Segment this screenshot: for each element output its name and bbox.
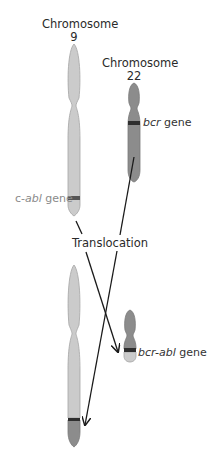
- bcr-gene-suffix: gene: [161, 116, 192, 129]
- philadelphia-chromosome: [124, 310, 136, 362]
- c-abl-gene-label: c-abl gene: [15, 192, 73, 205]
- arrow-bcr-top-segment: [120, 157, 134, 235]
- chr9-title-line2: 9: [42, 31, 106, 44]
- c-abl-prefix: c-: [15, 192, 25, 205]
- bcr-abl-gene-name: bcr-abl: [138, 346, 176, 359]
- chr22-title: Chromosome 22: [102, 57, 166, 83]
- derivative-band: [68, 418, 80, 421]
- arrow-abl-top-segment: [76, 221, 82, 234]
- bcr-gene-label: bcr gene: [143, 116, 192, 129]
- translocation-label: Translocation: [71, 237, 149, 250]
- bcr-abl-gene-label: bcr-abl gene: [138, 346, 207, 359]
- chromosome-9: [68, 44, 80, 216]
- c-abl-gene-suffix: gene: [42, 192, 73, 205]
- arrow-bcr-to-derivative: [85, 251, 117, 425]
- bcr-abl-gene-suffix: gene: [176, 346, 207, 359]
- bcr-gene-name: bcr: [143, 116, 161, 129]
- bcr-band: [128, 121, 140, 125]
- c-abl-gene-name: abl: [25, 192, 42, 205]
- chr9-title: Chromosome 9: [42, 18, 106, 44]
- chr22-title-line2: 22: [102, 70, 166, 83]
- arrow-abl-to-fusion: [86, 252, 118, 352]
- bcr-abl-band: [124, 348, 136, 352]
- chromosome-22: [128, 83, 140, 182]
- chromosome-translocation-diagram: Chromosome 9 Chromosome 22 bcr gene c-ab…: [0, 0, 211, 459]
- derivative-chromosome-9: [68, 265, 80, 447]
